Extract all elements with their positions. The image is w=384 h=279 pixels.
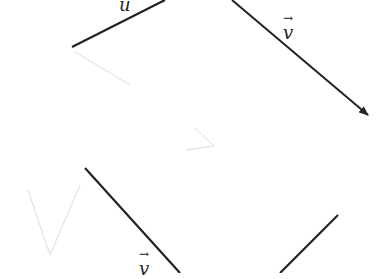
right-segment-bottom: [280, 215, 338, 273]
label-v-top-text: v: [283, 22, 293, 43]
label-u: u: [119, 0, 131, 15]
v-vector-top: [232, 0, 368, 115]
label-v-bottom: → v: [139, 250, 149, 279]
faint-sketch-lines: [28, 52, 214, 255]
vector-arrow-icon: →: [139, 250, 149, 258]
label-v-top: → v: [283, 14, 293, 43]
v-segment-bottom: [85, 168, 180, 273]
vector-arrow-icon: →: [283, 14, 293, 22]
label-v-bottom-text: v: [139, 258, 149, 279]
